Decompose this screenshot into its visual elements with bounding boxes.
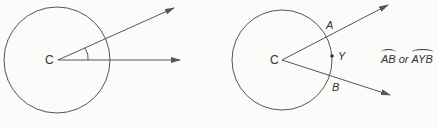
right-center-label: C [270, 54, 279, 66]
point-y-label: Y [338, 51, 345, 62]
left-ray-upper [58, 8, 174, 60]
right-ray-upper [282, 5, 388, 60]
angle-mark-icon [85, 48, 88, 60]
arc-ab-label: AB [381, 53, 396, 65]
point-b-label: B [332, 82, 339, 93]
arc-notation: AB or AYB [381, 53, 433, 65]
arc-or-label: or [399, 53, 409, 65]
point-y-dot [330, 54, 334, 58]
diagram-canvas: C C A Y B AB or AYB [0, 0, 438, 127]
point-a-label: A [326, 20, 333, 31]
geometry-drawing [0, 0, 438, 127]
arc-ayb-label: AYB [412, 53, 433, 65]
left-center-label: C [45, 54, 54, 66]
